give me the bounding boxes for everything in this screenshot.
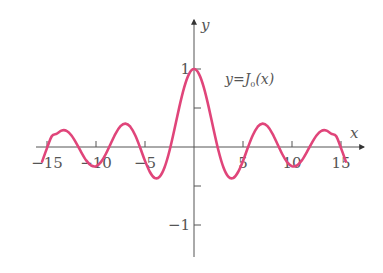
x-tick-label: −15 [31, 154, 63, 172]
x-axis-label: x [350, 124, 359, 142]
y-tick-label: −1 [168, 216, 190, 234]
y-axis-label: y [200, 16, 210, 34]
x-tick-label: 15 [331, 154, 350, 172]
function-annotation: y=J0(x) [224, 71, 274, 89]
bessel-chart: −15−10−5510151−1 y x y=J0(x) [0, 0, 383, 273]
